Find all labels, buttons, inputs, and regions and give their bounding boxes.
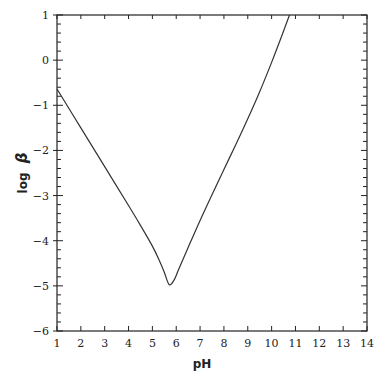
y-tick-label: −3 [33, 190, 49, 203]
x-tick-label: 14 [360, 337, 374, 350]
x-tick-label: 9 [244, 337, 251, 350]
y-tick-label: −5 [33, 280, 49, 293]
y-axis-title: log β [13, 153, 31, 194]
data-curve [57, 15, 290, 285]
y-axis-title-prefix: log [16, 172, 30, 193]
ph-log-beta-chart: 1234567891011121314 10−1−2−3−4−5−6 pH lo… [0, 0, 384, 382]
plot-frame [57, 15, 367, 331]
x-tick-label: 6 [173, 337, 180, 350]
x-tick-label: 13 [336, 337, 350, 350]
x-axis-tick-labels: 1234567891011121314 [54, 337, 375, 350]
x-tick-label: 10 [265, 337, 279, 350]
y-tick-label: −1 [33, 99, 49, 112]
x-tick-label: 7 [197, 337, 204, 350]
x-tick-label: 3 [101, 337, 108, 350]
y-tick-label: −2 [33, 144, 49, 157]
x-tick-label: 11 [288, 337, 302, 350]
y-axis-ticks [53, 15, 367, 331]
y-tick-label: −6 [33, 325, 49, 338]
x-tick-label: 12 [312, 337, 326, 350]
x-tick-label: 5 [149, 337, 156, 350]
y-tick-label: −4 [33, 235, 49, 248]
x-tick-label: 8 [220, 337, 227, 350]
x-tick-label: 2 [77, 337, 84, 350]
x-tick-label: 4 [125, 337, 132, 350]
y-tick-label: 0 [42, 54, 49, 67]
x-axis-ticks [57, 15, 367, 331]
y-axis-title-symbol: β [13, 153, 31, 165]
x-axis-title: pH [193, 357, 212, 371]
x-tick-label: 1 [54, 337, 61, 350]
svg-text:log β: log β [13, 153, 31, 194]
y-axis-tick-labels: 10−1−2−3−4−5−6 [33, 9, 49, 338]
y-tick-label: 1 [42, 9, 49, 22]
